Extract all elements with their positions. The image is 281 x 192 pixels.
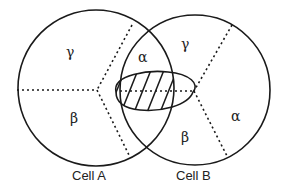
cell-a-beta-label: β [70, 110, 78, 126]
cell-a-name: Cell A [72, 168, 106, 183]
cell-b-divider-lower [194, 91, 228, 158]
venn-diagram: γ β α γ α β Cell A Cell B [0, 0, 281, 192]
cell-b-divider-upper [194, 25, 232, 91]
cell-a-alpha-label: α [138, 49, 148, 65]
cell-b-name: Cell B [176, 168, 211, 183]
cell-b-gamma-label: γ [181, 36, 189, 52]
cell-b-beta-label: β [181, 129, 189, 145]
cell-a-circle [18, 10, 174, 166]
cell-a-divider-lower [97, 90, 129, 155]
hatch-line [107, 65, 127, 115]
cell-b-alpha-label: α [231, 108, 241, 124]
cell-a-gamma-label: γ [66, 44, 74, 60]
